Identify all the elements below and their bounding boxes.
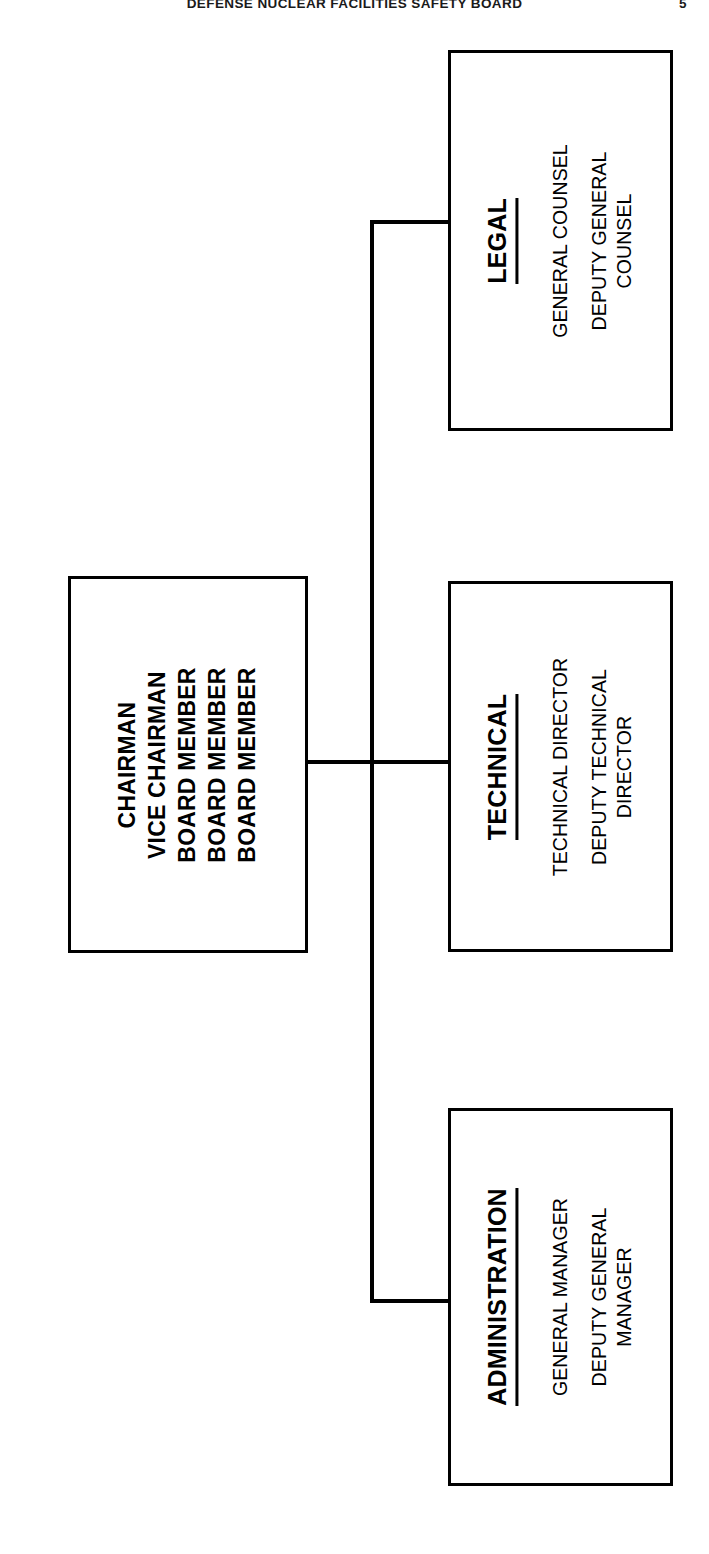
board-line-vice-chairman: VICE CHAIRMAN xyxy=(143,667,173,862)
board-line-member-2: BOARD MEMBER xyxy=(203,667,233,862)
connector-to-technical xyxy=(370,760,450,764)
node-administration[interactable]: ADMINISTRATION GENERAL MANAGER DEPUTY GE… xyxy=(448,1108,673,1486)
legal-title: LEGAL xyxy=(484,198,518,284)
connector-board-to-bus xyxy=(305,760,374,764)
connector-to-legal xyxy=(370,220,450,224)
node-technical[interactable]: TECHNICAL TECHNICAL DIRECTOR DEPUTY TECH… xyxy=(448,581,673,952)
technical-content: TECHNICAL TECHNICAL DIRECTOR DEPUTY TECH… xyxy=(484,602,637,932)
technical-role-director: TECHNICAL DIRECTOR xyxy=(548,602,573,932)
technical-title: TECHNICAL xyxy=(484,693,518,839)
board-line-member-3: BOARD MEMBER xyxy=(233,667,263,862)
page-header: DEFENSE NUCLEAR FACILITIES SAFETY BOARD … xyxy=(0,0,709,14)
org-chart-page: DEFENSE NUCLEAR FACILITIES SAFETY BOARD … xyxy=(0,0,709,1554)
administration-content: ADMINISTRATION GENERAL MANAGER DEPUTY GE… xyxy=(484,1132,637,1462)
administration-title: ADMINISTRATION xyxy=(484,1188,518,1406)
administration-role-general-manager: GENERAL MANAGER xyxy=(548,1132,573,1462)
legal-role-deputy-general-counsel: DEPUTY GENERAL COUNSEL xyxy=(587,141,637,341)
board-member-list: CHAIRMAN VICE CHAIRMAN BOARD MEMBER BOAR… xyxy=(113,667,262,862)
node-board[interactable]: CHAIRMAN VICE CHAIRMAN BOARD MEMBER BOAR… xyxy=(68,576,308,953)
administration-role-deputy-general-manager: DEPUTY GENERAL MANAGER xyxy=(587,1197,637,1397)
node-legal[interactable]: LEGAL GENERAL COUNSEL DEPUTY GENERAL COU… xyxy=(448,50,673,431)
technical-role-deputy-director: DEPUTY TECHNICAL DIRECTOR xyxy=(587,659,637,874)
connector-to-administration xyxy=(370,1299,450,1303)
board-line-member-1: BOARD MEMBER xyxy=(173,667,203,862)
page-header-title: DEFENSE NUCLEAR FACILITIES SAFETY BOARD xyxy=(187,0,523,11)
legal-role-general-counsel: GENERAL COUNSEL xyxy=(548,76,573,406)
legal-content: LEGAL GENERAL COUNSEL DEPUTY GENERAL COU… xyxy=(484,76,637,406)
page-number: 5 xyxy=(679,0,687,11)
board-line-chairman: CHAIRMAN xyxy=(113,667,143,862)
